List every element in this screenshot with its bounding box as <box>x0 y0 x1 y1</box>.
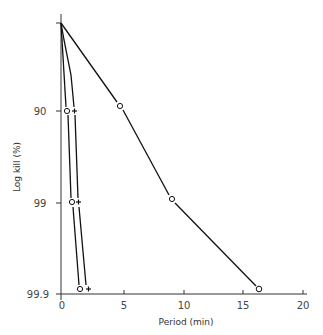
series-lines <box>61 23 256 286</box>
y-tick-99: 99 <box>34 198 47 209</box>
marker-circle <box>69 199 74 204</box>
marker-plus <box>72 109 77 114</box>
marker-circle <box>256 286 262 292</box>
series-circle-slow-line <box>61 23 117 102</box>
markers <box>64 103 261 291</box>
marker-circle <box>77 286 82 291</box>
marker-circle <box>117 103 122 108</box>
y-tick-99-9: 99.9 <box>27 289 49 300</box>
marker-circle <box>64 108 69 113</box>
marker-circle <box>169 196 174 201</box>
x-tick-20: 20 <box>297 300 310 311</box>
marker-plus <box>76 200 81 205</box>
axes <box>56 14 307 300</box>
marker-plus <box>86 287 91 292</box>
x-tick-0: 0 <box>59 300 65 311</box>
x-axis-title: Period (min) <box>159 317 214 327</box>
y-axis-title: Log kill (%) <box>12 142 22 192</box>
x-tick-10: 10 <box>178 300 191 311</box>
x-tick-5: 5 <box>121 300 127 311</box>
x-tick-15: 15 <box>237 300 250 311</box>
plus-markers <box>72 109 91 292</box>
log-kill-chart: 90 99 99.9 0 5 10 15 20 Period (min) Log… <box>0 0 323 335</box>
y-tick-90: 90 <box>34 106 47 117</box>
